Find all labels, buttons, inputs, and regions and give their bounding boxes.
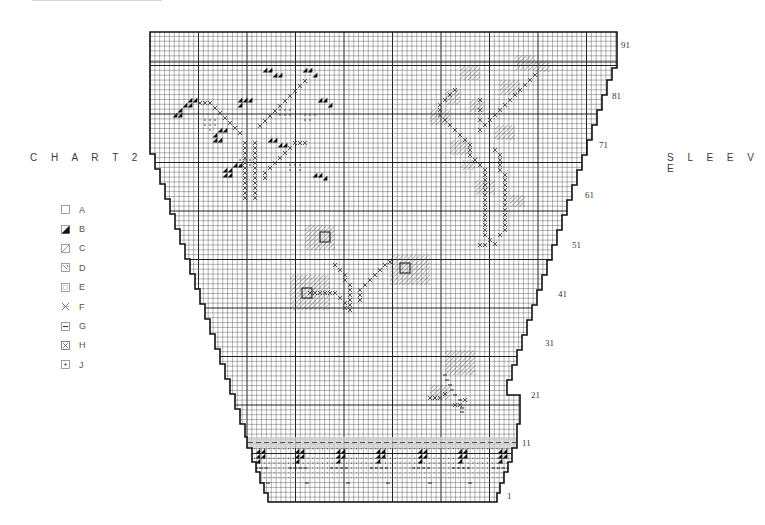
row-number-label: 21 [531, 390, 540, 400]
row-number-label: 1 [507, 491, 512, 501]
row-number-label: 81 [612, 91, 621, 101]
knitting-chart: 9181716151413121111 [0, 0, 765, 525]
row-number-label: 41 [558, 289, 567, 299]
row-number-label: 91 [621, 40, 630, 50]
row-number-label: 71 [599, 140, 608, 150]
row-number-label: 11 [522, 438, 531, 448]
row-number-label: 61 [585, 190, 594, 200]
row-number-label: 51 [572, 240, 581, 250]
row-number-label: 31 [545, 338, 554, 348]
